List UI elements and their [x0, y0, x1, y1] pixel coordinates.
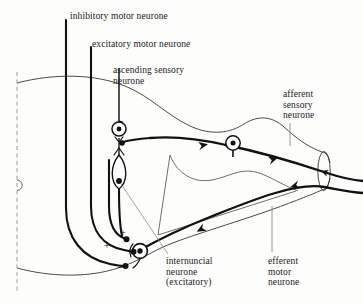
reflex-arc-figure: inhibitory motor neurone excitatory moto…: [0, 0, 363, 304]
efferent-direction-arrows: [195, 180, 300, 234]
label-inhibitory-motor-neurone: inhibitory motor neurone: [70, 11, 168, 22]
afferent-terminal-branch: [123, 138, 150, 142]
dorsal-root-ganglion-cell: [226, 136, 240, 157]
grey-matter-outline: [158, 155, 298, 235]
synapse-sign-plus-upper: +: [120, 228, 126, 238]
label-efferent-motor-neurone: efferent motor neurone: [268, 256, 299, 288]
label-internuncial-neurone: internuncial neurone (excitatory): [166, 256, 213, 288]
internuncial-neurone-cell-body: [112, 155, 126, 189]
spinal-cord-outline: [17, 76, 322, 275]
efferent-motor-neurone-path: [140, 186, 363, 250]
synapse-sign-plus-lower: +: [104, 241, 110, 251]
central-canal-icon: [17, 180, 22, 190]
label-ascending-sensory-neurone: ascending sensory neurone: [113, 65, 184, 86]
synapse-sign-minus: –: [118, 262, 123, 272]
synaptic-bouton-ascending: [119, 140, 125, 146]
label-afferent-sensory-neurone: afferent sensory neurone: [283, 89, 314, 121]
afferent-sensory-neurone-path: [150, 137, 363, 181]
label-excitatory-motor-neurone: excitatory motor neurone: [92, 39, 190, 50]
ascending-neurone-cell-body: [112, 122, 126, 136]
internuncial-label-leader: [121, 184, 168, 254]
